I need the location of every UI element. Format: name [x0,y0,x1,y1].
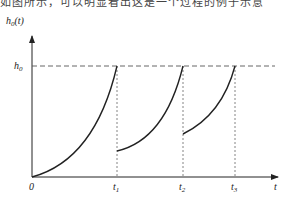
y-axis-label: h0(t) [6,15,25,28]
t2-tick-label: t2 [179,181,186,194]
hazard-chart: h0(t) h0 0 t1 t2 t3 t [0,0,293,197]
curve-segment-3 [183,66,235,134]
curve-segment-2 [117,66,183,151]
t3-tick-label: t3 [231,181,238,194]
t1-tick-label: t1 [113,181,119,194]
h0-tick-label: h0 [14,60,23,73]
curve-segment-1 [32,66,117,177]
origin-label: 0 [29,181,34,192]
x-axis-label: t [274,181,277,192]
